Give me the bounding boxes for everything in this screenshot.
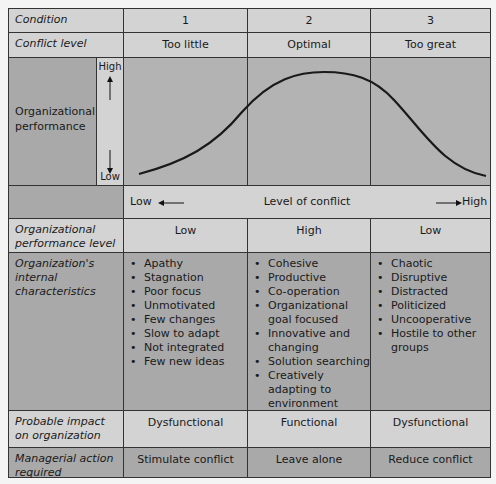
list-item: Co-operation bbox=[248, 285, 370, 299]
y-low-label: Low bbox=[97, 170, 123, 184]
condition-label: Condition bbox=[9, 9, 124, 33]
axis-row-blank bbox=[9, 186, 124, 219]
list-item: Few new ideas bbox=[124, 355, 247, 369]
condition-2: 2 bbox=[248, 9, 371, 33]
condition-3: 3 bbox=[371, 9, 490, 33]
characteristics-list-2: Cohesive Productive Co-operation Organiz… bbox=[248, 257, 370, 411]
list-item: Disruptive bbox=[371, 271, 490, 285]
impact-label: Probable impact on organization bbox=[9, 411, 124, 448]
characteristics-3: Chaotic Disruptive Distracted Politicize… bbox=[371, 253, 490, 411]
characteristics-1: Apathy Stagnation Poor focus Unmotivated… bbox=[124, 253, 248, 411]
characteristics-2: Cohesive Productive Co-operation Organiz… bbox=[248, 253, 371, 411]
y-axis-label: Organizational performance bbox=[15, 104, 95, 134]
x-axis-row: Low Level of conflict High bbox=[124, 186, 490, 219]
action-label: Managerial action required bbox=[9, 448, 124, 477]
performance-level-1: Low bbox=[124, 219, 248, 253]
list-item: Unmotivated bbox=[124, 299, 247, 313]
list-item: Solution searching bbox=[248, 355, 370, 369]
y-axis-arrow-strip: High Low bbox=[97, 58, 124, 186]
y-high-label: High bbox=[97, 60, 123, 74]
conflict-level-1: Too little bbox=[124, 33, 248, 58]
characteristics-list-3: Chaotic Disruptive Distracted Politicize… bbox=[371, 257, 490, 355]
list-item: Few changes bbox=[124, 313, 247, 327]
impact-1: Dysfunctional bbox=[124, 411, 248, 448]
conflict-level-label: Conflict level bbox=[9, 33, 124, 58]
list-item: Politicized bbox=[371, 299, 490, 313]
conflict-level-3: Too great bbox=[371, 33, 490, 58]
performance-level-label: Organizational performance level bbox=[9, 219, 124, 253]
impact-2: Functional bbox=[248, 411, 371, 448]
x-high-label: High bbox=[462, 195, 487, 209]
list-item: Cohesive bbox=[248, 257, 370, 271]
action-1: Stimulate conflict bbox=[124, 448, 248, 477]
list-item: Chaotic bbox=[371, 257, 490, 271]
condition-1: 1 bbox=[124, 9, 248, 33]
performance-level-3: Low bbox=[371, 219, 490, 253]
performance-curve bbox=[124, 58, 490, 186]
list-item: Hostile to other groups bbox=[371, 327, 490, 355]
impact-3: Dysfunctional bbox=[371, 411, 490, 448]
y-axis-arrows-icon bbox=[97, 74, 123, 182]
list-item: Organizational goal focused bbox=[248, 299, 370, 327]
list-item: Poor focus bbox=[124, 285, 247, 299]
performance-level-2: High bbox=[248, 219, 371, 253]
list-item: Apathy bbox=[124, 257, 247, 271]
list-item: Creatively adapting to environment bbox=[248, 369, 370, 411]
action-3: Reduce conflict bbox=[371, 448, 490, 477]
list-item: Slow to adapt bbox=[124, 327, 247, 341]
characteristics-list-1: Apathy Stagnation Poor focus Unmotivated… bbox=[124, 257, 247, 369]
conflict-performance-table: Condition 1 2 3 Conflict level Too littl… bbox=[8, 8, 491, 478]
list-item: Productive bbox=[248, 271, 370, 285]
list-item: Distracted bbox=[371, 285, 490, 299]
list-item: Uncooperative bbox=[371, 313, 490, 327]
action-2: Leave alone bbox=[248, 448, 371, 477]
right-arrow-icon bbox=[436, 200, 462, 206]
list-item: Stagnation bbox=[124, 271, 247, 285]
list-item: Innovative and changing bbox=[248, 327, 370, 355]
characteristics-label: Organization's internal characteristics bbox=[9, 253, 124, 411]
list-item: Not integrated bbox=[124, 341, 247, 355]
conflict-level-2: Optimal bbox=[248, 33, 371, 58]
org-performance-axis-label-cell: Organizational performance bbox=[9, 58, 97, 186]
